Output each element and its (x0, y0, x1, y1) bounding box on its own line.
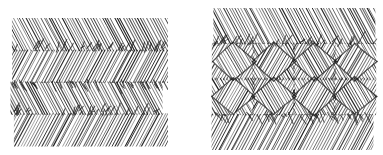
basketweave-diamond-lattice-swatch (208, 4, 380, 154)
herringbone-hatch-drawing (8, 14, 168, 150)
figure-panel (0, 0, 383, 155)
diamond-lattice-drawing (208, 4, 380, 154)
herringbone-hatch-swatch (8, 14, 168, 150)
